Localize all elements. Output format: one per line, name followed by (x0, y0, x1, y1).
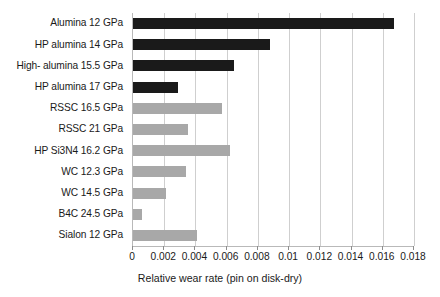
x-tick (257, 246, 258, 250)
bar (133, 166, 186, 177)
x-tick (226, 246, 227, 250)
x-tick-label: 0.01 (278, 252, 298, 262)
bar (133, 188, 166, 199)
x-tick-label: 0.018 (400, 252, 426, 262)
category-label: RSSC 16.5 GPa (0, 98, 128, 119)
bar (133, 60, 234, 71)
bar-chart: Alumina 12 GPaHP alumina 14 GPaHigh- alu… (0, 0, 440, 297)
category-label: Sialon 12 GPa (0, 225, 128, 246)
bar (133, 230, 197, 241)
x-axis-tick-labels: 00.0020.0040.0060.0080.010.0120.0140.016… (132, 252, 413, 266)
bar-slot (133, 161, 414, 182)
bar (133, 145, 230, 156)
x-tick-label: 0 (129, 252, 135, 262)
category-label: High- alumina 15.5 GPa (0, 55, 128, 76)
category-label: HP Si3N4 16.2 GPa (0, 140, 128, 161)
x-tick (351, 246, 352, 250)
bars-layer (133, 13, 414, 246)
category-label: HP alumina 14 GPa (0, 34, 128, 55)
x-tick-label: 0.008 (244, 252, 270, 262)
bar (133, 18, 394, 29)
bar (133, 103, 222, 114)
x-tick (132, 246, 133, 250)
bar (133, 209, 142, 220)
bar (133, 39, 270, 50)
category-label: RSSC 21 GPa (0, 119, 128, 140)
plot-area (132, 13, 414, 247)
x-tick-label: 0.016 (369, 252, 395, 262)
bar-slot (133, 77, 414, 98)
category-axis: Alumina 12 GPaHP alumina 14 GPaHigh- alu… (0, 13, 128, 246)
x-tick (163, 246, 164, 250)
bar-slot (133, 13, 414, 34)
category-label: HP alumina 17 GPa (0, 77, 128, 98)
x-tick-label: 0.006 (213, 252, 239, 262)
bar-slot (133, 55, 414, 76)
bar-slot (133, 98, 414, 119)
bar (133, 82, 178, 93)
bar-slot (133, 140, 414, 161)
category-label: WC 14.5 GPa (0, 183, 128, 204)
category-label: WC 12.3 GPa (0, 161, 128, 182)
x-axis-title: Relative wear rate (pin on disk-dry) (0, 272, 440, 284)
bar (133, 124, 188, 135)
category-label: Alumina 12 GPa (0, 13, 128, 34)
bar-slot (133, 34, 414, 55)
bar-slot (133, 183, 414, 204)
bar-slot (133, 119, 414, 140)
x-tick-label: 0.012 (307, 252, 333, 262)
x-tick-label: 0.002 (150, 252, 176, 262)
bar-slot (133, 204, 414, 225)
x-tick-label: 0.004 (182, 252, 208, 262)
x-tick (413, 246, 414, 250)
gridline (414, 13, 415, 246)
bar-slot (133, 225, 414, 246)
category-label: B4C 24.5 GPa (0, 204, 128, 225)
x-tick (319, 246, 320, 250)
x-tick (288, 246, 289, 250)
x-tick-label: 0.014 (338, 252, 364, 262)
x-tick (382, 246, 383, 250)
x-tick (194, 246, 195, 250)
